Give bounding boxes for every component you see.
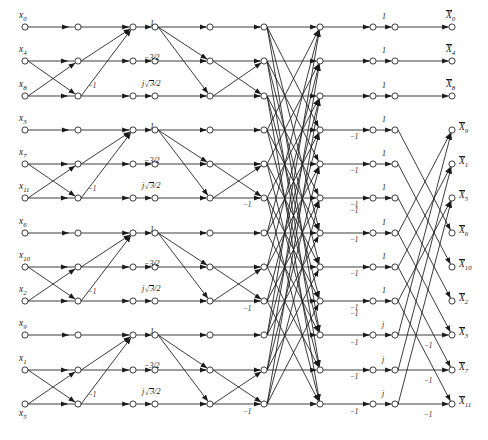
- final-coef-9: j: [382, 321, 384, 329]
- edge-s5-cross-bm-2: [213, 269, 261, 301]
- input-label-x6: x6: [19, 217, 27, 229]
- input-label-x0: x0: [19, 11, 27, 23]
- edge-s5-cross-mb-3: [213, 370, 261, 402]
- stage5-node-top-3: [261, 332, 267, 338]
- input-label-x3: x3: [19, 114, 27, 126]
- sfg-canvas: [0, 0, 488, 440]
- stage1-node-mid-2: [75, 264, 81, 270]
- stage1-node-mid-0: [75, 58, 81, 64]
- output-label-X10: X10: [459, 260, 472, 272]
- edge-final-8-5: [398, 201, 450, 301]
- stage7-node-10: [370, 367, 376, 373]
- stage4-node-mid-0: [207, 58, 213, 64]
- coef-1-g2: 1: [150, 123, 154, 131]
- coef-neg32-g4: −3/2: [144, 362, 160, 370]
- stage5-node-top-1: [261, 127, 267, 133]
- sfg-nodes: [22, 24, 455, 407]
- edge-s4-top-down-mid-3: [158, 335, 207, 368]
- stage1-node-top-2: [75, 230, 81, 236]
- coef-neg1-g3: −1: [88, 289, 96, 296]
- stage5-node-bot-3: [261, 401, 267, 407]
- stage5-node-mid-2: [261, 264, 267, 270]
- stage1-node-bot-2: [75, 298, 81, 304]
- edge-cross-bot-mid-3: [28, 372, 75, 404]
- coef-1-g1: 1: [150, 20, 154, 28]
- minus-one-bfly-5: −1: [350, 237, 358, 244]
- stage7-node-4: [370, 161, 376, 167]
- stage1-node-mid-1: [75, 161, 81, 167]
- stage1-node-mid-3: [75, 367, 81, 373]
- stage8-node-0: [392, 24, 398, 30]
- edge-s4-top-down-bot-2: [158, 233, 208, 298]
- stage2-node-top-2: [130, 230, 136, 236]
- output-label-X5: X5: [459, 191, 468, 203]
- output-node-4: [449, 161, 455, 167]
- minus-one-bfly-1: −1: [350, 134, 358, 141]
- output-node-11: [449, 401, 455, 407]
- minus-one-bfly-6: −1: [350, 271, 358, 278]
- stage4-node-top-2: [207, 230, 213, 236]
- input-node-6: [22, 230, 28, 236]
- output-label-X7: X7: [459, 363, 468, 375]
- coef-1-g3: 1: [150, 226, 154, 234]
- input-label-x7: x7: [19, 148, 27, 160]
- stage1-node-bot-1: [75, 195, 81, 201]
- stage7-node-9: [370, 332, 376, 338]
- minus-one-bfly-4: −1: [350, 208, 358, 215]
- edge-cross-bot-mid-1: [28, 166, 75, 198]
- coef-jroot3-g1: j√3/2: [142, 80, 160, 88]
- edge-s2-mid-up-0: [81, 29, 130, 61]
- stage8-node-10: [392, 367, 398, 373]
- output-label-X0: X0: [446, 11, 455, 23]
- input-node-0: [22, 24, 28, 30]
- input-node-5: [22, 195, 28, 201]
- minus-one-bfly-8: −1: [350, 311, 358, 318]
- stage2-node-mid-1: [130, 161, 136, 167]
- edge-s5-cross-mb-0: [213, 61, 261, 94]
- input-node-1: [22, 58, 28, 64]
- minus-one-bfly-2: −1: [350, 168, 358, 175]
- output-label-X6: X6: [459, 226, 468, 238]
- stage6-node-2: [317, 93, 323, 99]
- edge-s2-mid-up-1: [81, 132, 130, 164]
- stage5-node-bot-2: [261, 298, 267, 304]
- stage4-node-bot-0: [207, 93, 213, 99]
- stage6-node-4: [317, 161, 323, 167]
- stage7-node-2: [370, 93, 376, 99]
- minus-one-out-3: −1: [424, 343, 432, 350]
- stage7-node-5: [370, 195, 376, 201]
- output-label-X9: X9: [459, 123, 468, 135]
- stage2-node-bot-0: [130, 93, 136, 99]
- edge-s4-top-down-mid-0: [158, 27, 207, 59]
- output-label-X3: X3: [459, 328, 468, 340]
- coef-jroot3-g4: j√3/2: [142, 388, 160, 396]
- output-label-X11: X11: [459, 397, 471, 409]
- edge-s4-top-down-mid-1: [158, 130, 207, 162]
- stage2-node-mid-3: [130, 367, 136, 373]
- output-node-10: [449, 367, 455, 373]
- final-coef-8: 1: [382, 287, 386, 295]
- stage4-node-top-0: [207, 24, 213, 30]
- final-coef-2: 1: [382, 82, 386, 90]
- edge-s2-mid-up-2: [81, 235, 130, 267]
- output-node-2: [449, 93, 455, 99]
- input-label-x10: x10: [19, 251, 30, 263]
- input-node-7: [22, 264, 28, 270]
- minus-one-bfly-11: −1: [350, 409, 358, 416]
- final-coef-7: 1: [382, 253, 386, 261]
- coef-neg32-g3: −3/2: [144, 260, 160, 268]
- edge-cross-mid-bot-2: [28, 267, 75, 299]
- stage8-node-1: [392, 58, 398, 64]
- edge-radix4-2-3-2: [267, 304, 318, 404]
- stage8-node-4: [392, 161, 398, 167]
- edge-radix4-0-0-1: [267, 27, 318, 127]
- stage8-node-9: [392, 332, 398, 338]
- stage6-node-1: [317, 58, 323, 64]
- edge-s5-cross-bm-1: [213, 166, 261, 198]
- stage4-node-bot-3: [207, 401, 213, 407]
- edge-s4-top-down-bot-1: [158, 130, 208, 195]
- edge-radix4-1-1-3: [267, 164, 319, 367]
- input-label-x4: x4: [19, 45, 27, 57]
- input-label-x9: x9: [19, 319, 27, 331]
- stage8-node-3: [392, 127, 398, 133]
